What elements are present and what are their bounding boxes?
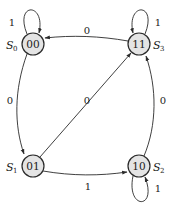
state-label-s3: S 3 [153, 39, 164, 54]
edge-s2-s3 [144, 56, 154, 156]
state-node-s3: 11 [128, 33, 150, 55]
edge-label-s0-s0: 1 [9, 17, 15, 28]
svg-text:2: 2 [160, 167, 164, 175]
edge-s1-s2 [43, 171, 127, 175]
state-code: 00 [26, 38, 39, 50]
svg-text:3: 3 [160, 45, 164, 53]
edge-label-s2-s3: 0 [160, 95, 166, 106]
state-label-s2: S 2 [153, 161, 164, 176]
edge-label-s3-s0: 0 [84, 25, 90, 36]
state-diagram: 1 0 0 1 1 0 1 0 00 11 01 10 S 0 S 3 S 1 … [0, 0, 170, 211]
edge-label-s1-s2: 1 [85, 181, 91, 192]
edge-label-s3-s3: 1 [155, 17, 161, 28]
state-code: 10 [132, 160, 145, 172]
svg-text:0: 0 [13, 45, 17, 53]
state-node-s1: 01 [22, 155, 44, 177]
edge-label-s2-s2: 1 [155, 183, 161, 194]
edge-s0-s1 [17, 54, 27, 154]
state-label-s1: S 1 [6, 161, 17, 176]
edge-s0-s0 [24, 10, 40, 34]
state-node-s2: 10 [128, 155, 150, 177]
state-node-s0: 00 [22, 33, 44, 55]
edge-s2-s2 [132, 176, 148, 202]
svg-text:1: 1 [13, 167, 17, 175]
state-code: 11 [132, 38, 145, 50]
edge-label-s0-s1: 0 [7, 95, 13, 106]
edge-s3-s0 [45, 36, 128, 41]
state-code: 01 [26, 160, 39, 172]
state-label-s0: S 0 [6, 39, 17, 54]
edge-label-s1-s3: 0 [84, 95, 90, 106]
edge-s3-s3 [132, 10, 148, 34]
